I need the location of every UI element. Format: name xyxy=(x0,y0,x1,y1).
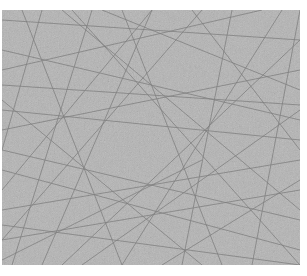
texture-image xyxy=(2,10,300,265)
line-texture xyxy=(2,10,300,265)
